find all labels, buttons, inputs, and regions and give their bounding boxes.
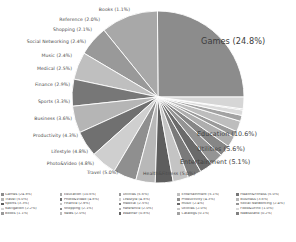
- slice-label-medical: Medical (2.5%): [14, 67, 72, 72]
- legend-item[interactable]: Social Networking (2.4%): [236, 202, 295, 206]
- legend-column: Education (10.6%)Photo&Video (4.8%)Finan…: [60, 193, 119, 242]
- legend-swatch-icon: [1, 208, 4, 211]
- slice-label-photo-video: Photo&Video (4.8%): [36, 162, 94, 167]
- legend-label: Music (2.4%): [181, 202, 204, 206]
- legend-swatch-icon: [60, 193, 63, 196]
- legend-item[interactable]: Reference (2.0%): [119, 207, 178, 211]
- slice-label-books: Books (1.1%): [72, 8, 130, 13]
- legend-label: Reference (2.0%): [123, 207, 153, 211]
- legend-label: Sports (3.3%): [5, 202, 29, 206]
- legend-label: Weather (0.8%): [123, 212, 150, 216]
- legend-swatch-icon: [177, 198, 180, 201]
- legend-item[interactable]: Music (2.4%): [177, 202, 236, 206]
- legend-swatch-icon: [119, 193, 122, 196]
- legend-swatch-icon: [177, 203, 180, 206]
- legend-swatch-icon: [236, 203, 239, 206]
- legend-swatch-icon: [119, 208, 122, 211]
- legend-item[interactable]: Photo&Video (4.8%): [60, 198, 119, 202]
- legend-item[interactable]: Travel (5.0%): [1, 198, 60, 202]
- slice-label-social-networking: Social Networking (2.4%): [6, 40, 86, 45]
- legend-label: Entertainment (5.1%): [181, 193, 219, 197]
- legend-label: Education (10.6%): [64, 193, 96, 197]
- legend-item[interactable]: Catalogs (0.1%): [177, 212, 236, 216]
- legend-column: Games (24.8%)Travel (5.0%)Sports (3.3%)N…: [1, 193, 60, 242]
- legend-swatch-icon: [177, 208, 180, 211]
- legend-label: Social Networking (2.4%): [240, 202, 284, 206]
- legend-item[interactable]: Finance (2.9%): [60, 202, 119, 206]
- legend-item[interactable]: Weather (0.8%): [119, 212, 178, 216]
- legend-column: Utilities (5.6%)Lifestyle (4.8%)Medical …: [119, 193, 178, 242]
- legend-swatch-icon: [119, 198, 122, 201]
- slice-label-lifestyle: Lifestyle (4.8%): [30, 150, 88, 155]
- legend-label: Photo&Video (4.8%): [64, 198, 99, 202]
- legend: Games (24.8%)Travel (5.0%)Sports (3.3%)N…: [0, 191, 296, 242]
- legend-item[interactable]: Newsstand (0.2%): [236, 212, 295, 216]
- legend-label: Shopping (2.1%): [64, 207, 93, 211]
- slice-label-entertainment: Entertainment (5.1%): [180, 159, 250, 165]
- legend-label: Utilities (5.6%): [123, 193, 149, 197]
- legend-item[interactable]: Navigation (2.2%): [1, 207, 60, 211]
- legend-swatch-icon: [236, 198, 239, 201]
- slice-label-sports: Sports (3.3%): [14, 100, 70, 105]
- slice-label-music: Music (2.4%): [16, 54, 72, 59]
- legend-label: Productivity (4.3%): [181, 198, 214, 202]
- legend-swatch-icon: [60, 208, 63, 211]
- legend-label: Navigation (2.2%): [5, 207, 37, 211]
- slice-label-reference: Reference (2.0%): [38, 18, 100, 23]
- legend-item[interactable]: Medical (2.5%): [119, 202, 178, 206]
- legend-item[interactable]: News (2.0%): [60, 212, 119, 216]
- legend-label: Travel (5.0%): [5, 198, 28, 202]
- legend-swatch-icon: [60, 212, 63, 215]
- legend-label: Books (1.1%): [5, 212, 28, 216]
- legend-label: Health&Fitness (5.0%): [240, 193, 279, 197]
- slice-label-health-fitness: Health&Fitness (5.0%): [143, 172, 195, 177]
- legend-label: Business (3.6%): [240, 198, 268, 202]
- legend-item[interactable]: Education (10.6%): [60, 193, 119, 197]
- slice-label-travel: Travel (5.0%): [66, 171, 118, 176]
- legend-item[interactable]: Entertainment (5.1%): [177, 193, 236, 197]
- slice-label-education: Education (10.6%): [197, 131, 257, 137]
- legend-swatch-icon: [60, 198, 63, 201]
- legend-swatch-icon: [177, 193, 180, 196]
- legend-swatch-icon: [1, 212, 4, 215]
- legend-column: Health&Fitness (5.0%)Business (3.6%)Soci…: [236, 193, 295, 242]
- slice-label-games: Games (24.8%): [201, 37, 265, 45]
- slice-label-business: Business (3.6%): [14, 117, 72, 122]
- legend-swatch-icon: [119, 212, 122, 215]
- legend-item[interactable]: Food&Drink (1.0%): [236, 207, 295, 211]
- legend-swatch-icon: [60, 203, 63, 206]
- slice-label-finance: Finance (2.9%): [12, 83, 70, 88]
- legend-swatch-icon: [236, 208, 239, 211]
- legend-label: News (2.0%): [64, 212, 86, 216]
- legend-item[interactable]: Lifestyle (4.8%): [119, 198, 178, 202]
- legend-label: Games (24.8%): [5, 193, 32, 197]
- legend-swatch-icon: [177, 212, 180, 215]
- legend-label: Utilities (2.0%): [181, 207, 207, 211]
- legend-item[interactable]: Health&Fitness (5.0%): [236, 193, 295, 197]
- legend-item[interactable]: Productivity (4.3%): [177, 198, 236, 202]
- legend-item[interactable]: Utilities (2.0%): [177, 207, 236, 211]
- pie-chart: Games (24.8%) Education (10.6%) Utilitie…: [0, 0, 296, 190]
- pie-slice[interactable]: [157, 11, 244, 97]
- legend-swatch-icon: [1, 203, 4, 206]
- legend-label: Finance (2.9%): [64, 202, 90, 206]
- legend-item[interactable]: Shopping (2.1%): [60, 207, 119, 211]
- legend-label: Lifestyle (4.8%): [123, 198, 150, 202]
- legend-label: Medical (2.5%): [123, 202, 149, 206]
- slice-label-shopping: Shopping (2.1%): [30, 28, 92, 33]
- legend-item[interactable]: Sports (3.3%): [1, 202, 60, 206]
- legend-swatch-icon: [1, 198, 4, 201]
- legend-item[interactable]: Books (1.1%): [1, 212, 60, 216]
- legend-item[interactable]: Utilities (5.6%): [119, 193, 178, 197]
- legend-item[interactable]: Games (24.8%): [1, 193, 60, 197]
- slice-label-utilities: Utilities (5.6%): [197, 146, 245, 152]
- legend-swatch-icon: [236, 212, 239, 215]
- legend-label: Food&Drink (1.0%): [240, 207, 273, 211]
- legend-column: Entertainment (5.1%)Productivity (4.3%)M…: [177, 193, 236, 242]
- legend-swatch-icon: [119, 203, 122, 206]
- legend-label: Catalogs (0.1%): [181, 212, 209, 216]
- legend-label: Newsstand (0.2%): [240, 212, 272, 216]
- legend-swatch-icon: [1, 193, 4, 196]
- legend-swatch-icon: [236, 193, 239, 196]
- legend-item[interactable]: Business (3.6%): [236, 198, 295, 202]
